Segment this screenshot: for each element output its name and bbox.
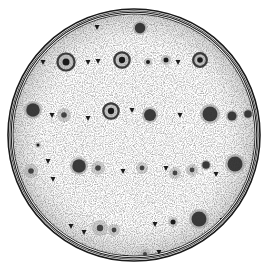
petri-dish-illustration: Petri dish with bacterial colonies (engr… bbox=[0, 0, 267, 268]
colony bbox=[161, 55, 171, 65]
colony bbox=[35, 142, 41, 148]
colony bbox=[200, 104, 220, 124]
petri-dish-svg bbox=[0, 0, 267, 268]
colony bbox=[169, 167, 181, 179]
colony bbox=[201, 160, 211, 170]
colony bbox=[189, 209, 209, 229]
colony bbox=[24, 101, 42, 119]
colony bbox=[243, 109, 253, 119]
colony bbox=[226, 110, 238, 122]
colony bbox=[108, 224, 120, 236]
colony bbox=[225, 154, 245, 174]
colony bbox=[186, 164, 198, 176]
agar-surface bbox=[0, 0, 267, 268]
colony bbox=[24, 164, 38, 178]
colony bbox=[168, 217, 178, 227]
colony bbox=[144, 58, 152, 66]
colony bbox=[56, 52, 76, 72]
colony bbox=[102, 102, 120, 120]
colony bbox=[192, 52, 208, 68]
colony bbox=[92, 220, 108, 236]
colony bbox=[113, 51, 131, 69]
colony bbox=[91, 161, 105, 175]
colony bbox=[133, 21, 147, 35]
colony bbox=[136, 162, 148, 174]
colony bbox=[57, 108, 71, 122]
colony bbox=[70, 157, 88, 175]
colony bbox=[142, 107, 158, 123]
